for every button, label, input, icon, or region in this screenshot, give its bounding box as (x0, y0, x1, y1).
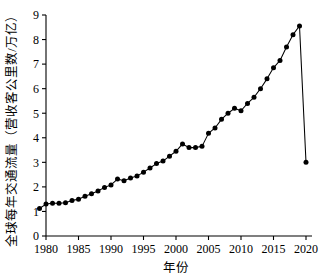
data-point (226, 111, 231, 116)
data-point (44, 202, 49, 207)
data-point (63, 200, 68, 205)
data-point (304, 160, 309, 165)
x-tick-label: 2000 (164, 242, 188, 256)
line-chart: 全球每年交通流量（营收客公里数/万亿） 年份 0123456789 198019… (0, 0, 324, 280)
data-point (187, 145, 192, 150)
data-point (213, 125, 218, 130)
y-tick-label: 9 (33, 8, 39, 22)
data-point (128, 176, 133, 181)
y-tick-label: 3 (33, 156, 39, 170)
data-point (161, 159, 166, 164)
y-tick-label: 5 (33, 107, 39, 121)
data-point (154, 161, 159, 166)
data-point (219, 117, 224, 122)
data-point (50, 201, 55, 206)
data-point (245, 101, 250, 106)
x-tick-group: 198019851990199520002005201020152020 (34, 236, 318, 256)
data-point (252, 95, 257, 100)
x-tick-label: 2010 (229, 242, 253, 256)
data-point (258, 86, 263, 91)
data-point (122, 178, 127, 183)
data-point (141, 170, 146, 175)
data-point (109, 182, 114, 187)
x-tick-label: 2020 (294, 242, 318, 256)
data-point (193, 145, 198, 150)
x-axis-title: 年份 (163, 261, 189, 275)
data-point (135, 174, 140, 179)
y-tick-label: 2 (33, 180, 39, 194)
data-point (37, 206, 42, 211)
y-tick-label: 8 (33, 33, 39, 47)
x-tick-label: 1980 (34, 242, 58, 256)
data-point (206, 131, 211, 136)
data-point (57, 201, 62, 206)
data-point (102, 185, 107, 190)
data-series (37, 24, 309, 211)
data-point (239, 108, 244, 113)
data-point (180, 141, 185, 146)
series-markers (37, 24, 309, 211)
data-point (284, 44, 289, 49)
y-tick-label: 7 (33, 57, 39, 71)
data-point (96, 189, 101, 194)
data-point (167, 154, 172, 159)
data-point (291, 32, 296, 37)
x-tick-label: 2015 (262, 242, 286, 256)
data-point (115, 177, 120, 182)
data-point (271, 65, 276, 70)
data-point (89, 191, 94, 196)
data-point (83, 194, 88, 199)
y-axis-title: 全球每年交通流量（营收客公里数/万亿） (4, 9, 19, 246)
x-axis: 198019851990199520002005201020152020 (34, 236, 318, 256)
data-point (232, 106, 237, 111)
data-point (297, 24, 302, 29)
chart-container: 全球每年交通流量（营收客公里数/万亿） 年份 0123456789 198019… (0, 0, 324, 280)
data-point (200, 144, 205, 149)
x-tick-label: 2005 (197, 242, 221, 256)
x-tick-label: 1985 (67, 242, 91, 256)
y-tick-label: 6 (33, 82, 39, 96)
x-tick-label: 1990 (99, 242, 123, 256)
data-point (70, 198, 75, 203)
y-tick-label: 4 (33, 131, 39, 145)
data-point (265, 76, 270, 81)
data-point (278, 58, 283, 63)
data-point (148, 165, 153, 170)
series-line (40, 26, 307, 208)
data-point (76, 197, 81, 202)
x-tick-label: 1995 (132, 242, 156, 256)
data-point (174, 149, 179, 154)
